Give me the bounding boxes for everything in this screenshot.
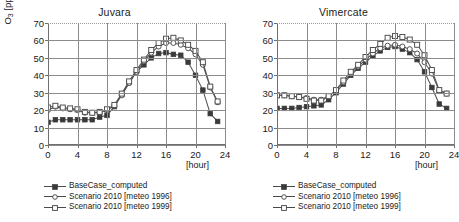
y-tick-label: 30 xyxy=(262,87,273,98)
x-tick-mark xyxy=(425,145,426,148)
x-axis-caption-vimercate: [hour] xyxy=(415,160,438,170)
x-tick-mark xyxy=(277,145,278,148)
x-tick-mark xyxy=(137,145,138,148)
y-tick-label: 10 xyxy=(33,122,44,133)
open-square-marker xyxy=(44,202,66,212)
filled-square-marker xyxy=(273,181,295,191)
x-tick-label: 0 xyxy=(45,149,50,160)
legend-juvara: BaseCase_computedScenario 2010 [meteo 19… xyxy=(44,181,172,213)
legend-item-label: Scenario 2010 [meteo 1996] xyxy=(298,192,401,203)
y-tick-label: 20 xyxy=(33,105,44,116)
x-tick-mark xyxy=(107,145,108,148)
x-gridline xyxy=(454,23,455,145)
legend-item: Scenario 2010 [meteo 1999] xyxy=(273,202,401,213)
chart-panel-vimercate: Vimercate 01020304050607004812162024 [ho… xyxy=(229,0,458,222)
chart-title-vimercate: Vimercate xyxy=(229,6,458,18)
y-tick-label: 0 xyxy=(268,140,273,151)
x-tick-label: 0 xyxy=(274,149,279,160)
x-gridline xyxy=(166,23,167,145)
y-tick-label: 60 xyxy=(33,35,44,46)
legend-item-label: Scenario 2010 [meteo 1999] xyxy=(298,202,401,213)
x-tick-label: 16 xyxy=(390,149,401,160)
x-gridline xyxy=(336,23,337,145)
x-tick-label: 12 xyxy=(360,149,371,160)
legend-item-label: BaseCase_computed xyxy=(298,181,376,192)
legend-item-label: Scenario 2010 [meteo 1996] xyxy=(69,192,172,203)
x-tick-label: 8 xyxy=(333,149,338,160)
y-tick-label: 30 xyxy=(33,87,44,98)
plot-area-vimercate: 01020304050607004812162024 xyxy=(277,23,454,145)
x-gridline xyxy=(225,23,226,145)
x-tick-mark xyxy=(454,145,455,148)
x-tick-mark xyxy=(48,145,49,148)
x-gridline xyxy=(307,23,308,145)
open-circle-marker xyxy=(44,192,66,202)
y-axis-label-sub: 3 xyxy=(7,13,14,17)
x-tick-label: 20 xyxy=(419,149,430,160)
x-gridline xyxy=(137,23,138,145)
filled-square-marker xyxy=(44,181,66,191)
y-tick-label: 70 xyxy=(262,18,273,29)
legend-item: Scenario 2010 [meteo 1996] xyxy=(273,192,401,203)
x-tick-label: 20 xyxy=(190,149,201,160)
legend-vimercate: BaseCase_computedScenario 2010 [meteo 19… xyxy=(273,181,401,213)
y-tick-mark xyxy=(45,40,48,41)
legend-item: BaseCase_computed xyxy=(273,181,401,192)
x-gridline xyxy=(196,23,197,145)
y-axis-label-main: O xyxy=(2,17,13,24)
y-tick-label: 40 xyxy=(262,70,273,81)
chart-title-juvara: Juvara xyxy=(0,6,229,18)
chart-panel-juvara: Juvara O3 [ppb] 010203040506070048121620… xyxy=(0,0,229,222)
y-tick-mark xyxy=(274,110,277,111)
y-tick-mark xyxy=(274,58,277,59)
x-tick-mark xyxy=(336,145,337,148)
x-tick-mark xyxy=(166,145,167,148)
y-tick-mark xyxy=(45,128,48,129)
plot-area-juvara: 01020304050607004812162024 xyxy=(48,23,225,145)
y-axis-label-juvara: O3 [ppb] xyxy=(2,0,14,50)
x-gridline xyxy=(395,23,396,145)
open-square-marker xyxy=(273,202,295,212)
x-tick-label: 16 xyxy=(161,149,172,160)
x-tick-mark xyxy=(366,145,367,148)
legend-item: Scenario 2010 [meteo 1999] xyxy=(44,202,172,213)
legend-item-label: Scenario 2010 [meteo 1999] xyxy=(69,202,172,213)
y-tick-label: 20 xyxy=(262,105,273,116)
x-tick-label: 4 xyxy=(304,149,309,160)
x-tick-label: 12 xyxy=(131,149,142,160)
y-tick-label: 50 xyxy=(262,52,273,63)
y-tick-mark xyxy=(274,40,277,41)
y-tick-mark xyxy=(274,93,277,94)
x-tick-mark xyxy=(307,145,308,148)
y-tick-mark xyxy=(45,58,48,59)
x-gridline xyxy=(425,23,426,145)
y-tick-mark xyxy=(45,23,48,24)
y-tick-label: 70 xyxy=(33,18,44,29)
open-circle-marker xyxy=(273,192,295,202)
y-tick-label: 60 xyxy=(262,35,273,46)
y-tick-mark xyxy=(45,110,48,111)
y-tick-mark xyxy=(274,75,277,76)
y-tick-mark xyxy=(274,23,277,24)
y-tick-label: 50 xyxy=(33,52,44,63)
x-tick-mark xyxy=(225,145,226,148)
x-gridline xyxy=(366,23,367,145)
x-tick-label: 8 xyxy=(104,149,109,160)
legend-item-label: BaseCase_computed xyxy=(69,181,147,192)
x-tick-label: 4 xyxy=(75,149,80,160)
x-axis-caption-juvara: [hour] xyxy=(186,160,209,170)
y-tick-mark xyxy=(274,128,277,129)
y-tick-label: 10 xyxy=(262,122,273,133)
y-tick-label: 0 xyxy=(39,140,44,151)
x-tick-label: 24 xyxy=(449,149,459,160)
legend-item: BaseCase_computed xyxy=(44,181,172,192)
y-axis-label-unit: [ppb] xyxy=(2,0,13,13)
y-tick-mark xyxy=(45,75,48,76)
x-tick-mark xyxy=(196,145,197,148)
legend-item: Scenario 2010 [meteo 1996] xyxy=(44,192,172,203)
x-tick-mark xyxy=(78,145,79,148)
y-tick-label: 40 xyxy=(33,70,44,81)
y-tick-mark xyxy=(45,93,48,94)
x-tick-mark xyxy=(395,145,396,148)
